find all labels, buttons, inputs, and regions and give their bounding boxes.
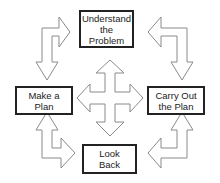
arrow-carry-lookback bbox=[148, 112, 193, 168]
arrow-plan-lookback bbox=[36, 112, 75, 168]
node-carry-out-the-plan: Carry Out the Plan bbox=[147, 86, 205, 115]
node-label: Carry Out the Plan bbox=[155, 90, 196, 112]
node-understand-the-problem: Understand the Problem bbox=[79, 10, 134, 48]
arrow-understand-plan bbox=[36, 17, 70, 80]
node-label: Understand the Problem bbox=[82, 13, 131, 46]
four-way-arrow bbox=[77, 60, 143, 136]
node-label: Make a Plan bbox=[28, 90, 59, 112]
arrow-understand-carry bbox=[148, 17, 193, 80]
node-make-a-plan: Make a Plan bbox=[15, 86, 73, 115]
node-label: Look Back bbox=[99, 148, 120, 170]
node-look-back: Look Back bbox=[82, 144, 137, 174]
